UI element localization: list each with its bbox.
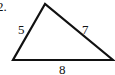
triangle-diagram (0, 0, 115, 75)
side-label-right: 7 (82, 23, 89, 36)
triangle-shape (13, 4, 113, 60)
side-label-left: 5 (18, 23, 25, 36)
side-label-bottom: 8 (59, 63, 66, 75)
